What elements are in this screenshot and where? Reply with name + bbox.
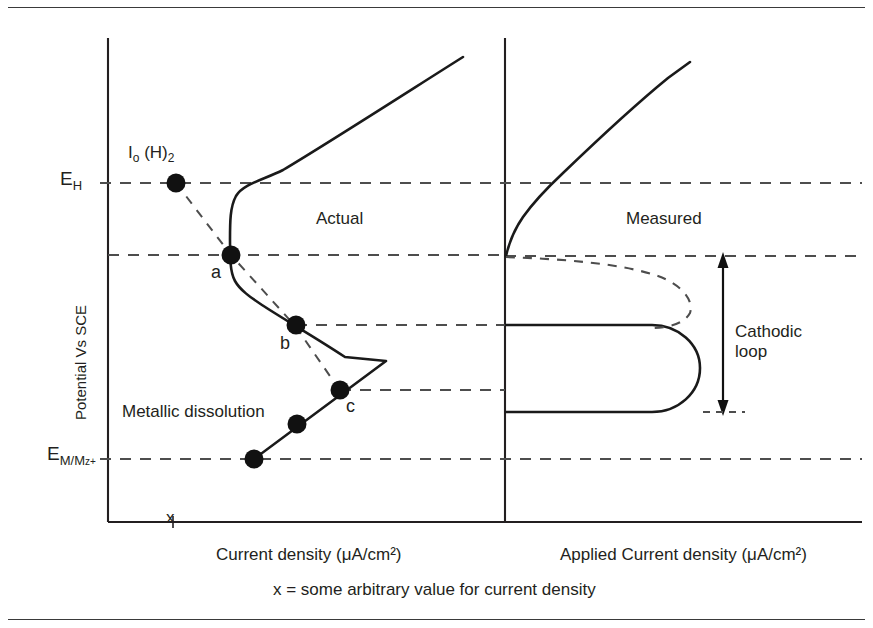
potential-label-eh: EH bbox=[60, 168, 82, 193]
exchange-current-label: Io (H)2 bbox=[128, 143, 174, 165]
exchange-current-mid: (H) bbox=[139, 143, 167, 162]
cathodic-loop-arrow-head-down bbox=[718, 400, 729, 416]
marker-point-e bbox=[245, 450, 264, 469]
point-label-b: b bbox=[280, 333, 290, 354]
potential-label-em: EM/Mz+ bbox=[47, 443, 96, 468]
cathodic-loop-label-line1: Cathodic bbox=[735, 322, 802, 342]
y-axis-title: Potential Vs SCE bbox=[72, 305, 89, 420]
measured-panel-curves bbox=[506, 62, 745, 416]
figure-container: Potential Vs SCE EH EM/Mz+ Io (H)2 a b c… bbox=[0, 0, 873, 628]
x-axis-title-left: Current density (μA/cm²) bbox=[216, 545, 402, 565]
potential-label-em-base: E bbox=[47, 443, 60, 464]
actual-panel-curves bbox=[176, 57, 463, 459]
measured-cathodic-loop bbox=[506, 325, 700, 412]
figure-caption: x = some arbitrary value for current den… bbox=[273, 580, 596, 600]
marker-point-b bbox=[287, 316, 306, 335]
region-label-metallic-dissolution: Metallic dissolution bbox=[122, 402, 265, 422]
point-label-a: a bbox=[211, 262, 221, 283]
x-axis-title-right: Applied Current density (μA/cm²) bbox=[560, 545, 807, 565]
point-label-c: c bbox=[346, 396, 355, 417]
potential-label-em-sup: z+ bbox=[85, 456, 96, 467]
marker-io-h2 bbox=[167, 174, 186, 193]
cathodic-loop-label: Cathodic loop bbox=[735, 322, 802, 361]
marker-point-d bbox=[288, 415, 307, 434]
region-label-actual: Actual bbox=[316, 209, 363, 229]
axis-group bbox=[108, 38, 862, 528]
cathodic-loop-label-line2: loop bbox=[735, 342, 802, 362]
potential-label-eh-base: E bbox=[60, 168, 73, 189]
true-cathodic-dashed-branch bbox=[506, 257, 691, 328]
polarization-diagram-svg bbox=[0, 0, 873, 628]
potential-label-em-sub: M/M bbox=[60, 453, 85, 468]
region-label-measured: Measured bbox=[626, 209, 702, 229]
cathodic-loop-arrow-head-up bbox=[718, 252, 729, 268]
potential-label-eh-sub: H bbox=[73, 178, 82, 193]
marker-point-a bbox=[222, 246, 241, 265]
x-arbitrary-mark-label: x bbox=[166, 508, 175, 528]
exchange-current-sub-2: 2 bbox=[168, 151, 175, 165]
